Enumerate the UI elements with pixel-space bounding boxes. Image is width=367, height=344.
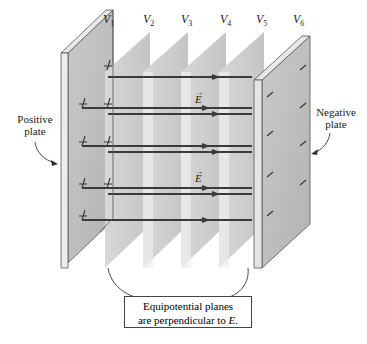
label-v1: V1 bbox=[103, 13, 114, 29]
caption-line2-prefix: are perpendicular to bbox=[138, 314, 229, 326]
field-label-e-lower: → E bbox=[195, 172, 202, 184]
caption-line2: are perpendicular to E. bbox=[125, 313, 251, 327]
field-label-e-upper: → E bbox=[195, 93, 202, 105]
v2-sub: 2 bbox=[150, 19, 154, 28]
label-v4: V4 bbox=[220, 13, 231, 29]
vector-arrow-icon: → bbox=[195, 167, 203, 176]
positive-pointer-arrowhead bbox=[51, 160, 58, 166]
label-v2: V2 bbox=[143, 13, 154, 29]
label-v3: V3 bbox=[181, 13, 192, 29]
label-v5: V5 bbox=[256, 13, 267, 29]
equipotential-diagram bbox=[0, 0, 367, 344]
negative-pointer-arrowhead bbox=[311, 149, 318, 155]
caption-box: Equipotential planes are perpendicular t… bbox=[124, 296, 252, 328]
positive-plate-label-line2: plate bbox=[14, 125, 56, 137]
v4-sub: 4 bbox=[227, 19, 231, 28]
equipotential-planes bbox=[105, 32, 264, 268]
v6-sub: 6 bbox=[300, 19, 304, 28]
positive-plate-label: Positive plate bbox=[14, 113, 56, 137]
v5-sub: 5 bbox=[263, 19, 267, 28]
positive-plate-label-line1: Positive bbox=[14, 113, 56, 125]
caption-line2-suffix: . bbox=[235, 314, 238, 326]
v3-sub: 3 bbox=[188, 19, 192, 28]
negative-plate-label-line2: plate bbox=[312, 118, 360, 130]
negative-plate-label: Negative plate bbox=[312, 106, 360, 130]
label-v6: V6 bbox=[293, 13, 304, 29]
v1-sub: 1 bbox=[110, 19, 114, 28]
caption-line1: Equipotential planes bbox=[125, 299, 251, 313]
negative-plate-label-line1: Negative bbox=[312, 106, 360, 118]
vector-arrow-icon: → bbox=[195, 88, 203, 97]
